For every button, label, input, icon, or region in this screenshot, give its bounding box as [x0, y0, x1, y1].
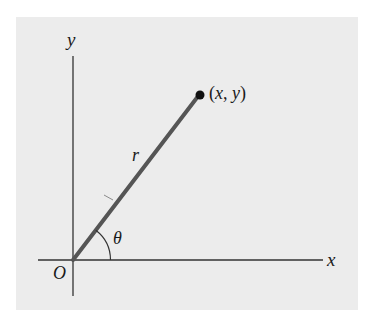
polar-coordinate-diagram [0, 0, 369, 334]
angle-arc [96, 230, 111, 260]
angle-label: θ [113, 229, 122, 247]
radius-label: r [132, 146, 139, 164]
radius-tick-mark [104, 195, 113, 200]
point-label: (x, y) [209, 84, 246, 102]
point-x: x [215, 83, 223, 103]
y-axis-label: y [67, 30, 75, 49]
x-axis-label: x [327, 250, 335, 269]
point-close-paren: ) [240, 83, 246, 103]
origin-label: O [53, 264, 66, 282]
point-comma: , [223, 83, 232, 103]
radius-segment [73, 95, 199, 260]
point-marker [196, 91, 205, 100]
point-y: y [232, 83, 240, 103]
